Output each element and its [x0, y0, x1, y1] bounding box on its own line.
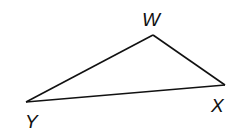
vertex-label-y: Y — [25, 111, 39, 132]
vertex-label-w: W — [142, 9, 162, 30]
triangle-diagram: W X Y — [0, 0, 244, 134]
vertex-label-x: X — [210, 95, 225, 116]
